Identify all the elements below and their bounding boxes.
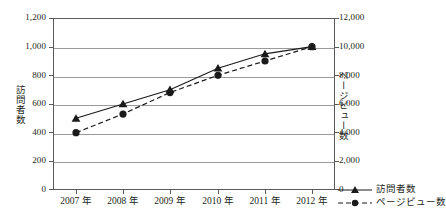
x-axis-tickmark [218, 190, 219, 194]
y-axis-left-tickmark [49, 104, 53, 105]
x-axis-label-2007: 2007 年 [49, 196, 103, 207]
y-axis-left-tickmark [49, 189, 53, 190]
x-axis-label-2009: 2009 年 [143, 196, 197, 207]
y-axis-left-tick-label: 200 [2, 156, 46, 165]
y-axis-right-tickmark [335, 18, 339, 19]
y-axis-right-tick-label: 12,000 [339, 13, 385, 22]
gridline [54, 162, 334, 163]
y-axis-left-tickmark [49, 75, 53, 76]
y-axis-left-tick-label: 1,000 [2, 42, 46, 51]
gridline [54, 105, 334, 106]
x-axis-tickmark [170, 190, 171, 194]
x-axis-label-2010: 2010 年 [191, 196, 245, 207]
legend-key-solid-triangle-icon [338, 184, 372, 196]
y-axis-left-tickmark [49, 47, 53, 48]
legend-item-visitors: 訪問者数 [338, 183, 446, 196]
x-axis-tickmark [76, 190, 77, 194]
plot-area [53, 18, 335, 190]
x-axis-tickmark [312, 190, 313, 194]
gridline [54, 77, 334, 78]
y-axis-right-tickmark [335, 161, 339, 162]
x-axis-label-2012: 2012 年 [285, 196, 339, 207]
y-axis-left-tick-label: 1,200 [2, 13, 46, 22]
y-axis-right-tickmark [335, 47, 339, 48]
y-axis-left-tickmark [49, 132, 53, 133]
legend-label-visitors: 訪問者数 [376, 183, 416, 196]
y-axis-left-tickmark [49, 18, 53, 19]
y-axis-right-tick-label: 2,000 [339, 156, 385, 165]
gridline [54, 134, 334, 135]
x-axis-tickmark [123, 190, 124, 194]
x-axis-label-2008: 2008 年 [96, 196, 150, 207]
y-axis-right-tick-label: 10,000 [339, 42, 385, 51]
x-axis-tickmark [265, 190, 266, 194]
legend-label-pageviews: ページビュー数 [376, 196, 446, 209]
gridline [54, 48, 334, 49]
legend-item-pageviews: ページビュー数 [338, 196, 446, 209]
y-axis-left-tick-label: 0 [2, 185, 46, 194]
y-axis-left-tickmark [49, 161, 53, 162]
legend-key-dashed-circle-icon [338, 197, 372, 209]
y-axis-right-title: ページビュー数 [337, 62, 348, 150]
y-axis-left-title: 訪問者数 [14, 72, 25, 138]
legend: 訪問者数 ページビュー数 [338, 183, 446, 209]
x-axis-label-2011: 2011 年 [238, 196, 292, 207]
